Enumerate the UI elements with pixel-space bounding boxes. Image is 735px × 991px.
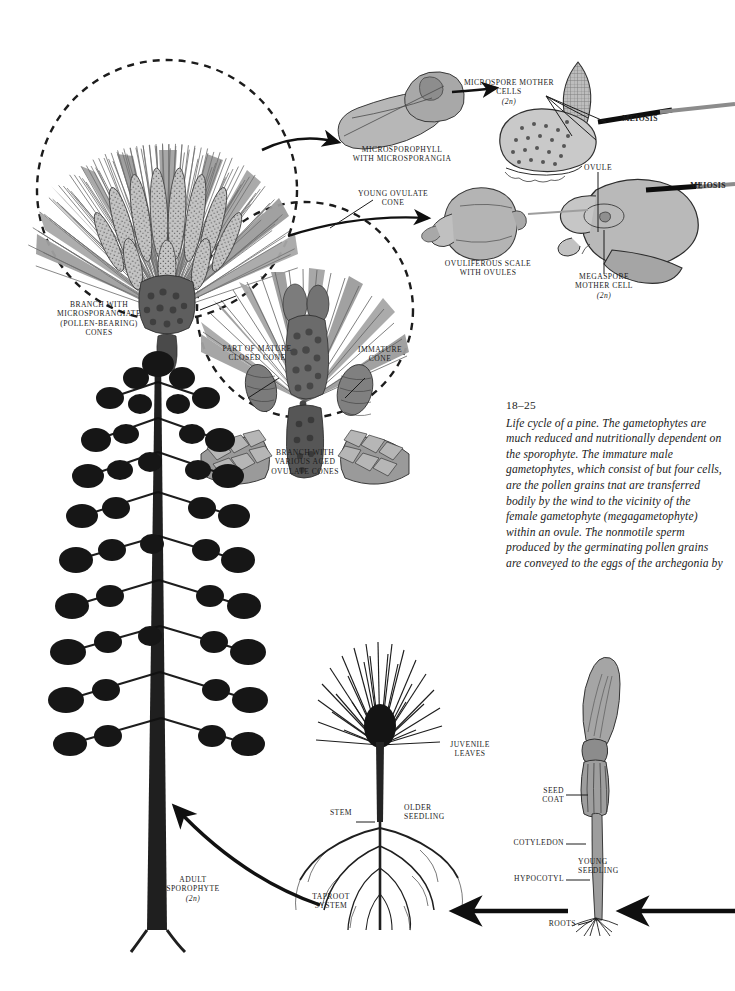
arrow-branch-to-microsporophyll (262, 138, 338, 150)
label-ovuliferous-scale: OVULIFEROUS SCALE WITH OVULES (428, 259, 548, 278)
label-young-ovulate-cone: YOUNG OVULATE CONE (338, 189, 448, 208)
label-meiosis-top: MEIOSIS (610, 114, 670, 123)
figure-number: 18–25 (506, 398, 724, 414)
ovule-section-illustration (558, 179, 698, 283)
arrow-cone-to-scale (288, 217, 428, 236)
label-microspore-ploidy: (2n) (456, 97, 562, 106)
label-juvenile-leaves: JUVENILE LEAVES (434, 740, 506, 759)
label-part-of-mature-closed-cone: PART OF MATURE CLOSED CONE (202, 344, 312, 363)
label-immature-cone: IMMATURE CONE (344, 345, 416, 364)
label-older-seedling: OLDER SEEDLING (404, 803, 474, 822)
label-ovule: OVULE (570, 163, 626, 172)
label-branch-ovulate: BRANCH WITH VARIOUS AGED OVULATE CONES (252, 448, 358, 476)
label-taproot-system: TAPROOT SYSTEM (296, 892, 366, 911)
microsporophyll-illustration (338, 72, 464, 149)
label-hypocotyl: HYPOCOTYL (490, 874, 564, 883)
older-seedling-illustration (296, 642, 463, 930)
label-young-seedling: YOUNG SEEDLING (578, 857, 646, 876)
young-seedling-illustration (572, 657, 620, 936)
figure-caption-text: Life cycle of a pine. The gametophytes a… (506, 417, 723, 570)
label-seed-coat: SEED COAT (516, 786, 564, 805)
pine-life-cycle-figure: BRANCH WITH MICROSPORANGIATE (POLLEN-BEA… (0, 0, 735, 991)
label-adult-ploidy: (2n) (150, 894, 236, 903)
label-microsporophyll: MICROSPOROPHYLL WITH MICROSPORANGIA (338, 145, 466, 164)
label-branch-microsporangiate: BRANCH WITH MICROSPORANGIATE (POLLEN-BEA… (34, 300, 164, 338)
figure-caption: 18–25 Life cycle of a pine. The gametoph… (506, 398, 724, 572)
label-stem: STEM (316, 808, 352, 817)
label-roots: ROOTS (528, 919, 576, 928)
label-megaspore-ploidy: (2n) (552, 291, 656, 300)
label-adult-sporophyte: ADULT SPOROPHYTE (150, 875, 236, 894)
label-cotyledon: COTYLEDON (492, 838, 564, 847)
label-megaspore-mother-cell: MEGASPORE MOTHER CELL (552, 272, 656, 291)
label-microspore-mother-cells: MICROSPORE MOTHER CELLS (456, 78, 562, 97)
label-meiosis-bottom: MEIOSIS (680, 181, 735, 190)
